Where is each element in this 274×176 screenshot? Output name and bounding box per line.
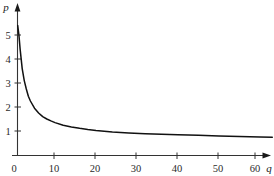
x-tick-label-10: 10 [49, 163, 60, 174]
x-tick-label-40: 40 [172, 163, 183, 174]
y-tick-label-1: 1 [5, 126, 10, 137]
x-tick-label-60: 60 [250, 163, 261, 174]
y-tick-label-3: 3 [5, 78, 10, 89]
chart-canvas: 1 2 3 4 5 0 10 20 30 40 50 60 p q [0, 0, 274, 176]
y-tick-label-2: 2 [5, 102, 10, 113]
y-tick-label-5: 5 [5, 30, 10, 41]
chart-figure: 1 2 3 4 5 0 10 20 30 40 50 60 p q [0, 0, 274, 176]
arrow-up-icon [15, 3, 21, 12]
y-axis-label: p [2, 1, 9, 13]
demand-curve-line [18, 25, 273, 137]
x-tick-label-50: 50 [213, 163, 224, 174]
x-tick-label-30: 30 [131, 163, 142, 174]
y-tick-label-4: 4 [5, 54, 11, 65]
x-axis-label: q [266, 162, 272, 174]
x-axis [12, 153, 271, 159]
arrow-right-icon [263, 153, 272, 159]
x-tick-label-20: 20 [90, 163, 101, 174]
x-tick-label-0: 0 [11, 163, 16, 174]
